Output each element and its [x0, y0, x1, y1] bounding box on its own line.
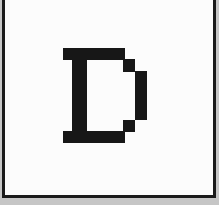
letter-d-glyph: [0, 0, 219, 205]
glyph-block-left-stem: [72, 48, 87, 143]
screenshot-root: [0, 0, 219, 205]
glyph-block-top-step: [123, 59, 135, 72]
glyph-block-right-bar: [135, 71, 147, 120]
glyph-block-bottom-bar: [63, 131, 125, 143]
